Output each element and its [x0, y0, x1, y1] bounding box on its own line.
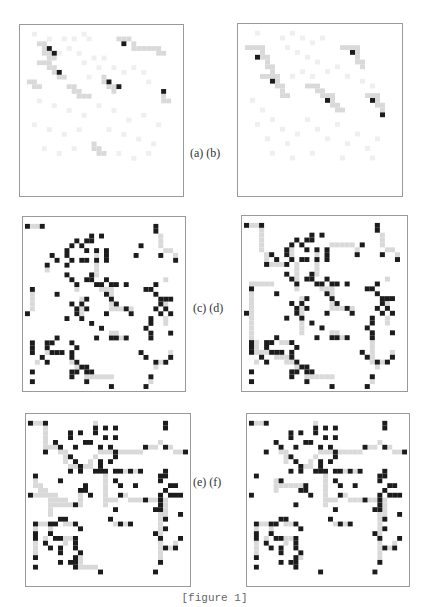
trail-cell	[74, 365, 79, 370]
trail-cell	[350, 45, 355, 50]
agent-cell	[118, 469, 123, 474]
trail-cell	[88, 565, 93, 570]
agent-cell	[158, 536, 163, 541]
agent-cell	[45, 340, 50, 345]
agent-cell	[397, 512, 402, 517]
trail-cell	[35, 224, 40, 229]
faint-cell	[62, 37, 67, 42]
agent-cell	[104, 258, 109, 263]
trail-cell	[254, 360, 259, 365]
agent-cell	[168, 355, 173, 360]
agent-cell	[148, 374, 153, 379]
trail-cell	[274, 488, 279, 493]
agent-cell	[370, 321, 375, 326]
faint-cell	[136, 137, 141, 142]
agent-cell	[328, 445, 333, 450]
trail-cell	[93, 565, 98, 570]
trail-cell	[47, 56, 52, 61]
agent-cell	[168, 493, 173, 498]
faint-cell	[141, 70, 146, 75]
agent-cell	[304, 247, 309, 252]
agent-cell	[104, 311, 109, 316]
trail-cell	[350, 306, 355, 311]
trail-cell	[102, 79, 107, 84]
agent-cell	[330, 335, 335, 340]
trail-cell	[380, 108, 385, 113]
trail-cell	[269, 526, 274, 531]
trail-cell	[163, 498, 168, 503]
faint-cell	[72, 37, 77, 42]
trail-cell	[249, 335, 254, 340]
trail-cell	[156, 51, 161, 56]
faint-cell	[370, 84, 375, 89]
trail-cell	[375, 98, 380, 103]
faint-cell	[131, 156, 136, 161]
agent-cell	[254, 536, 259, 541]
agent-cell	[289, 374, 294, 379]
trail-cell	[314, 272, 319, 277]
trail-cell	[119, 306, 124, 311]
agent-cell	[284, 272, 289, 277]
agent-cell	[148, 321, 153, 326]
agent-cell	[55, 336, 60, 341]
trail-cell	[48, 526, 53, 531]
trail-cell	[78, 560, 83, 565]
agent-cell	[289, 242, 294, 247]
agent-cell	[178, 536, 183, 541]
agent-cell	[392, 483, 397, 488]
trail-cell	[284, 454, 289, 459]
trail-cell	[370, 360, 375, 365]
agent-cell	[338, 483, 343, 488]
agent-cell	[158, 253, 163, 258]
agent-cell	[338, 493, 343, 498]
trail-cell	[345, 45, 350, 50]
agent-cell	[103, 426, 108, 431]
agent-cell	[294, 306, 299, 311]
agent-cell	[99, 326, 104, 331]
trail-cell	[377, 555, 382, 560]
agent-cell	[183, 450, 188, 455]
trail-cell	[358, 450, 363, 455]
agent-cell	[143, 445, 148, 450]
trail-cell	[343, 469, 348, 474]
trail-cell	[330, 330, 335, 335]
trail-cell	[43, 435, 48, 440]
agent-cell	[299, 365, 304, 370]
trail-cell	[103, 478, 108, 483]
trail-cell	[294, 277, 299, 282]
agent-cell	[279, 478, 284, 483]
agent-cell	[69, 374, 74, 379]
faint-cell	[32, 122, 37, 127]
agent-cell	[382, 426, 387, 431]
agent-cell	[304, 277, 309, 282]
agent-cell	[284, 252, 289, 257]
agent-cell	[89, 321, 94, 326]
agent-cell	[69, 258, 74, 263]
agent-cell	[106, 79, 111, 84]
agent-cell	[298, 469, 303, 474]
trail-cell	[153, 365, 158, 370]
agent-cell	[360, 242, 365, 247]
agent-cell	[294, 282, 299, 287]
agent-cell	[78, 464, 83, 469]
agent-cell	[249, 286, 254, 291]
agent-cell	[323, 469, 328, 474]
grid-canvas	[242, 216, 407, 391]
agent-cell	[293, 502, 298, 507]
trail-cell	[323, 502, 328, 507]
agent-cell	[113, 435, 118, 440]
agent-cell	[60, 350, 65, 355]
trail-cell	[33, 546, 38, 551]
faint-cell	[270, 151, 275, 156]
trail-cell	[298, 483, 303, 488]
agent-cell	[88, 440, 93, 445]
agent-cell	[163, 546, 168, 551]
trail-cell	[158, 531, 163, 536]
faint-cell	[355, 132, 360, 137]
agent-cell	[372, 570, 377, 575]
agent-cell	[249, 379, 254, 384]
agent-cell	[298, 488, 303, 493]
trail-cell	[372, 498, 377, 503]
agent-cell	[385, 306, 390, 311]
agent-cell	[64, 316, 69, 321]
